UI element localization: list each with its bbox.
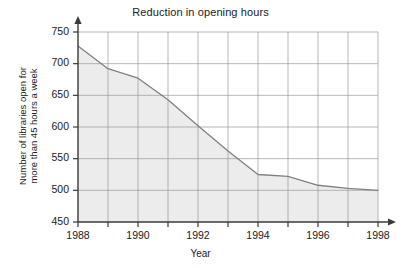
x-tick-label: 1994 bbox=[246, 229, 270, 241]
plot-area: 450500550600650700750 198819901992199419… bbox=[0, 0, 401, 268]
x-axis-arrow-icon bbox=[388, 218, 396, 225]
y-tick-label: 500 bbox=[51, 183, 69, 195]
chart-figure: Reduction in opening hours Number of lib… bbox=[0, 0, 401, 268]
x-tick-label: 1998 bbox=[366, 229, 390, 241]
y-tick-label: 600 bbox=[51, 120, 69, 132]
y-tick-label: 650 bbox=[51, 88, 69, 100]
x-tick-label: 1990 bbox=[126, 229, 150, 241]
y-axis-arrow-icon bbox=[74, 16, 81, 24]
x-tick-label: 1992 bbox=[186, 229, 210, 241]
x-tick-label: 1988 bbox=[66, 229, 90, 241]
y-tick-label: 700 bbox=[51, 56, 69, 68]
y-tick-label: 750 bbox=[51, 25, 69, 37]
x-tick-labels: 198819901992199419961998 bbox=[66, 229, 390, 241]
x-tick-label: 1996 bbox=[306, 229, 330, 241]
y-tick-labels: 450500550600650700750 bbox=[51, 25, 69, 227]
y-tick-label: 450 bbox=[51, 215, 69, 227]
y-tick-label: 550 bbox=[51, 151, 69, 163]
